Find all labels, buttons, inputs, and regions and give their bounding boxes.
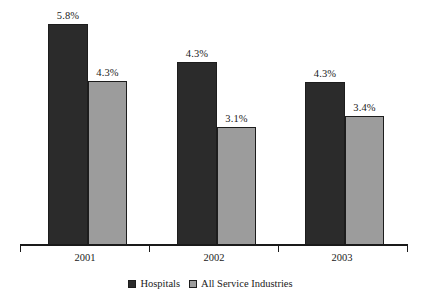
- gray-square-swatch-icon: [189, 280, 197, 288]
- legend-label-all-service-industries: All Service Industries: [201, 278, 293, 290]
- bar-value-label-all-service-industries-2002: 3.1%: [217, 113, 256, 124]
- bar-value-label-hospitals-2003: 4.3%: [305, 68, 345, 79]
- bar-all-service-industries-2002[interactable]: [217, 127, 256, 246]
- bar-hospitals-2002[interactable]: [177, 62, 217, 246]
- x-axis-tick-end: [407, 245, 408, 252]
- x-axis-line: [20, 244, 408, 246]
- grouped-bar-chart: 5.8% 4.3% 4.3% 3.1% 4.3% 3.4% 2001 2002 …: [0, 0, 421, 301]
- x-axis-label-2002: 2002: [179, 252, 249, 264]
- bar-hospitals-2003[interactable]: [305, 82, 345, 246]
- chart-legend: Hospitals All Service Industries: [0, 278, 421, 290]
- dark-square-swatch-icon: [128, 280, 136, 288]
- bar-all-service-industries-2003[interactable]: [345, 116, 384, 246]
- x-axis-tick-start: [20, 245, 21, 252]
- plot-area: 5.8% 4.3% 4.3% 3.1% 4.3% 3.4%: [0, 0, 421, 246]
- legend-label-hospitals: Hospitals: [140, 278, 180, 290]
- legend-item-all-service-industries[interactable]: All Service Industries: [189, 278, 293, 290]
- bar-all-service-industries-2001[interactable]: [88, 81, 127, 246]
- bar-value-label-hospitals-2002: 4.3%: [177, 48, 217, 59]
- bar-value-label-all-service-industries-2001: 4.3%: [88, 67, 127, 78]
- x-axis-label-2001: 2001: [50, 252, 120, 264]
- bar-value-label-hospitals-2001: 5.8%: [48, 10, 88, 21]
- x-axis-tick-2: [278, 245, 279, 252]
- x-axis-label-2003: 2003: [307, 252, 377, 264]
- bar-hospitals-2001[interactable]: [48, 24, 88, 246]
- x-axis-tick-1: [149, 245, 150, 252]
- bar-value-label-all-service-industries-2003: 3.4%: [345, 102, 384, 113]
- legend-item-hospitals[interactable]: Hospitals: [128, 278, 180, 290]
